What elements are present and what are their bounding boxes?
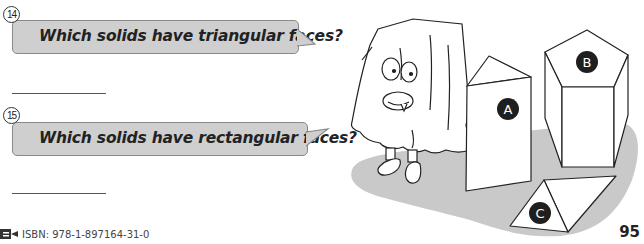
speech-tail-icon [297,28,321,52]
publisher-logo-icon [0,229,18,239]
question-number-14: 14 [3,6,20,23]
label-a: A [504,102,513,117]
answer-line-15[interactable] [12,193,106,194]
answer-line-14[interactable] [12,93,106,94]
solid-b-pentagonal-prism [545,30,628,167]
footer: ISBN: 978-1-897164-31-0 [0,227,149,241]
solids-illustration: A B C [330,0,644,244]
page-number: 95 [619,223,640,241]
question-number-15: 15 [3,107,20,124]
label-c: C [535,206,544,221]
solid-a-triangular-prism [466,56,531,191]
question-bubble-14: Which solids have triangular faces? [12,20,299,54]
question-bubble-15: Which solids have rectangular faces? [12,122,308,156]
speech-tail-icon [306,126,334,150]
label-b: B [583,55,592,70]
isbn-text: ISBN: 978-1-897164-31-0 [22,229,149,240]
